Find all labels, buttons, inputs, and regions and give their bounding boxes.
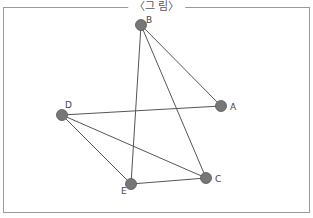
node-D (57, 110, 68, 121)
node-label-D: D (65, 100, 72, 110)
node-label-E: E (121, 186, 127, 196)
edge-D-E (62, 115, 131, 184)
node-C (201, 173, 212, 184)
edge-B-C (141, 25, 206, 178)
node-B (136, 20, 147, 31)
node-label-C: C (215, 174, 221, 184)
edge-B-E (131, 25, 141, 184)
node-label-B: B (146, 15, 152, 25)
node-A (216, 101, 227, 112)
node-label-A: A (230, 102, 237, 112)
edge-B-A (141, 25, 221, 106)
graph-diagram: ABCDE (0, 0, 313, 218)
edge-E-C (131, 178, 206, 184)
node-E (126, 179, 137, 190)
edge-D-A (62, 106, 221, 115)
edge-D-C (62, 115, 206, 178)
